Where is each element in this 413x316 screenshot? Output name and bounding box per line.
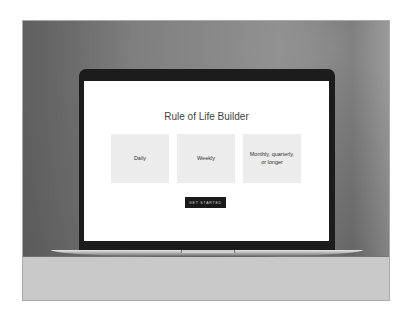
page-title: Rule of Life Builder [84,111,329,122]
card-label: Weekly [197,155,215,162]
get-started-button[interactable]: GET STARTED [185,197,226,208]
card-label: Daily [134,155,146,162]
card-weekly[interactable]: Weekly [177,134,235,183]
table-surface [23,257,389,301]
laptop-bezel: Rule of Life Builder Daily Weekly Monthl… [79,69,335,251]
card-label: Monthly, quarterly, or longer [247,151,297,165]
laptop-photo: Rule of Life Builder Daily Weekly Monthl… [22,20,390,301]
card-daily[interactable]: Daily [111,134,169,183]
laptop-notch [181,250,235,253]
laptop-screen: Rule of Life Builder Daily Weekly Monthl… [84,81,329,241]
card-monthly[interactable]: Monthly, quarterly, or longer [243,134,301,183]
